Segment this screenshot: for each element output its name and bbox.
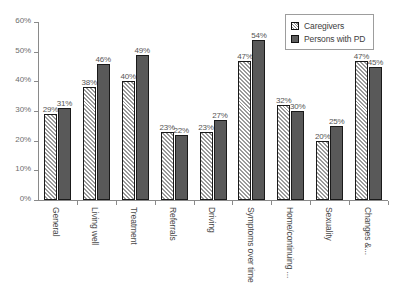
legend-label-caregivers: Caregivers	[304, 21, 344, 31]
bar-chart: 0%10%20%30%40%50%60% 29%31%38%46%40%49%2…	[0, 0, 417, 305]
legend-swatch-caregivers-icon	[291, 22, 299, 30]
x-axis-line	[38, 200, 388, 201]
bar-group: 23%27%	[200, 22, 227, 200]
x-axis-tick-mark	[116, 201, 117, 205]
bar-caregivers: 47%	[355, 61, 368, 200]
bar-persons-with-pd: 30%	[291, 111, 304, 200]
bar-value-label: 40%	[121, 72, 136, 81]
y-axis-tick-label: 20%	[15, 135, 31, 144]
bar-persons-with-pd: 46%	[97, 64, 110, 200]
y-axis-tick-label: 0%	[20, 194, 31, 203]
bar-value-label: 45%	[368, 58, 383, 67]
x-axis-tick-mark	[155, 201, 156, 205]
x-axis-tick-mark	[388, 201, 389, 205]
y-axis-tick-mark	[34, 200, 38, 201]
bar-value-label: 30%	[290, 102, 305, 111]
bar-caregivers: 38%	[83, 87, 96, 200]
bar-caregivers: 23%	[200, 132, 213, 200]
bar-group: 38%46%	[83, 22, 110, 200]
bar-value-label: 49%	[135, 46, 150, 55]
y-axis-tick-label: 30%	[15, 105, 31, 114]
x-axis-category-label: Referrals	[168, 207, 178, 241]
bar-caregivers: 40%	[122, 81, 135, 200]
x-axis-category-label: General	[51, 207, 61, 237]
bar-group: 29%31%	[44, 22, 71, 200]
x-axis-tick-mark	[310, 201, 311, 205]
bar-value-label: 54%	[251, 31, 266, 40]
x-axis-category-label: Sexuality	[324, 207, 334, 241]
y-axis-tick-label: 40%	[15, 75, 31, 84]
bar-caregivers: 29%	[44, 114, 57, 200]
legend-item-caregivers: Caregivers	[291, 19, 365, 32]
legend-swatch-persons-with-pd-icon	[291, 35, 299, 43]
bar-persons-with-pd: 25%	[330, 126, 343, 200]
x-axis-category-label: Driving	[207, 207, 217, 233]
bar-value-label: 47%	[237, 52, 252, 61]
bar-value-label: 38%	[82, 78, 97, 87]
x-axis-tick-mark	[271, 201, 272, 205]
y-axis-tick-label: 60%	[15, 16, 31, 25]
legend-item-persons-with-pd: Persons with PD	[291, 32, 365, 45]
bar-group: 23%22%	[161, 22, 188, 200]
bar-persons-with-pd: 45%	[369, 67, 382, 201]
bar-persons-with-pd: 31%	[58, 108, 71, 200]
x-axis-tick-mark	[77, 201, 78, 205]
bar-persons-with-pd: 22%	[175, 135, 188, 200]
x-axis-category-label: Home/continuing ...	[285, 207, 295, 278]
bar-value-label: 46%	[96, 55, 111, 64]
y-axis-tick-label: 10%	[15, 164, 31, 173]
x-axis-tick-mark	[349, 201, 350, 205]
bar-persons-with-pd: 54%	[252, 40, 265, 200]
bar-value-label: 22%	[173, 126, 188, 135]
bar-persons-with-pd: 27%	[214, 120, 227, 200]
x-axis-tick-mark	[232, 201, 233, 205]
chart-legend: Caregivers Persons with PD	[285, 14, 374, 50]
x-axis-category-label: Changes &...	[363, 207, 373, 255]
x-axis-category-label: Symptoms over time	[246, 207, 256, 283]
bar-persons-with-pd: 49%	[136, 55, 149, 200]
x-axis-category-label: Living well	[90, 207, 100, 245]
bar-caregivers: 23%	[161, 132, 174, 200]
bar-value-label: 20%	[315, 132, 330, 141]
bar-group: 40%49%	[122, 22, 149, 200]
bar-value-label: 25%	[329, 117, 344, 126]
x-axis-category-label: Treatment	[129, 207, 139, 245]
bar-caregivers: 32%	[277, 105, 290, 200]
bar-value-label: 31%	[57, 99, 72, 108]
bar-caregivers: 47%	[238, 61, 251, 200]
bar-value-label: 23%	[198, 123, 213, 132]
bar-value-label: 27%	[212, 111, 227, 120]
x-axis-tick-mark	[194, 201, 195, 205]
y-axis-tick-label: 50%	[15, 46, 31, 55]
bar-caregivers: 20%	[316, 141, 329, 200]
bar-group: 47%54%	[238, 22, 265, 200]
legend-label-persons-with-pd: Persons with PD	[304, 34, 365, 44]
